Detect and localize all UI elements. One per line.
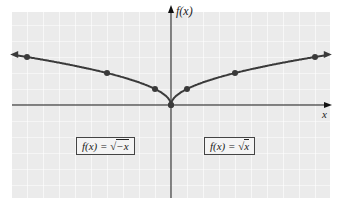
y-axis-arrow-icon	[168, 5, 174, 13]
data-point	[152, 86, 158, 92]
left-label-prefix: f(x) =	[82, 140, 110, 152]
data-point	[232, 70, 238, 76]
left-function-label: f(x) = √−x	[76, 137, 135, 155]
right-function-label: f(x) = √x	[204, 137, 255, 155]
data-point	[24, 54, 30, 60]
data-point	[184, 86, 190, 92]
right-label-prefix: f(x) =	[210, 140, 238, 152]
x-axis-label: x	[322, 108, 327, 120]
y-axis-label: f(x)	[176, 4, 193, 19]
data-point	[104, 70, 110, 76]
chart-canvas	[0, 0, 341, 209]
left-label-radicand: −x	[116, 139, 128, 152]
data-point	[168, 102, 174, 108]
right-label-radicand: x	[244, 139, 249, 152]
data-point	[312, 54, 318, 60]
